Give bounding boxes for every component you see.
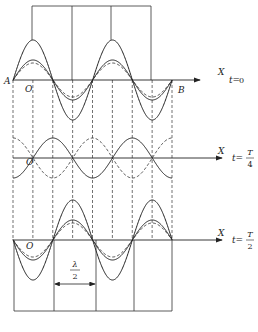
time-label-t0-value: 0 xyxy=(239,76,244,85)
time-label-tquarter-num: T xyxy=(247,148,253,157)
x-axis-label-tquarter: X xyxy=(217,146,225,156)
time-label-thalf-prefix: t= xyxy=(232,235,243,245)
x-axis-label-thalf: X xyxy=(217,228,225,238)
point-a-label: A xyxy=(3,76,11,86)
time-label-tquarter-den: 4 xyxy=(247,160,252,169)
lambda-den-label: 2 xyxy=(72,272,77,281)
time-label-thalf-num: T xyxy=(247,230,253,239)
standing-wave-diagram: λ 2 A O B X t= 0 O X t= T 4 O X t= T 2 xyxy=(0,0,258,332)
x-axis-label-t0: X xyxy=(217,67,225,77)
origin-label-t0: O xyxy=(25,84,33,94)
origin-label-tquarter: O xyxy=(26,157,34,167)
half-wavelength-dimension: λ 2 xyxy=(55,260,95,284)
dashed-guide-lines xyxy=(13,80,172,240)
time-label-tquarter-prefix: t= xyxy=(232,153,243,163)
origin-label-thalf: O xyxy=(26,241,34,251)
time-label-thalf-den: 2 xyxy=(247,242,252,251)
bottom-node-frame xyxy=(14,240,172,311)
top-antinode-frame xyxy=(32,6,151,80)
lambda-label: λ xyxy=(71,260,77,269)
point-b-label: B xyxy=(177,85,185,95)
